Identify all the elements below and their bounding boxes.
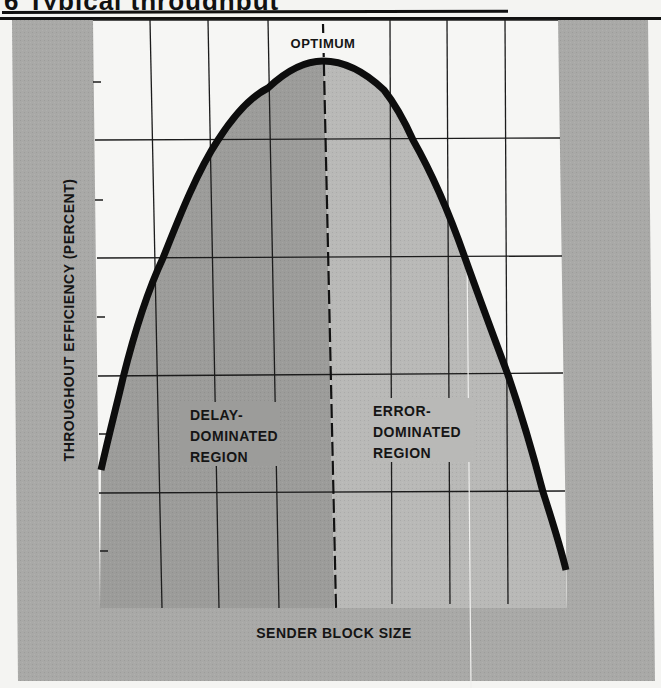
error-region-label-line1: ERROR- <box>373 403 431 419</box>
delay-region-label-line1: DELAY- <box>190 407 243 423</box>
throughput-chart: OPTIMUM DELAY- DOMINATED REGION ERROR- D… <box>0 0 661 688</box>
delay-region-label-line3: REGION <box>190 449 248 465</box>
x-axis-label: SENDER BLOCK SIZE <box>256 625 412 641</box>
error-region-label-line3: REGION <box>373 445 431 461</box>
error-region-label-line2: DOMINATED <box>373 424 461 440</box>
optimum-label: OPTIMUM <box>291 36 356 51</box>
y-axis-label: THROUGHOUT EFFICIENCY (PERCENT) <box>61 179 77 462</box>
delay-region-label-line2: DOMINATED <box>190 428 278 444</box>
